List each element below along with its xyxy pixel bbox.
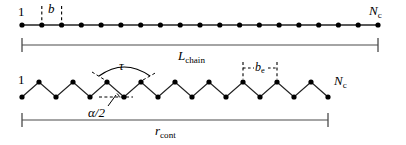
straight-chain-group: [19, 6, 380, 28]
torsion-tau-label: τ: [119, 59, 124, 72]
L-chain-subscript: chain: [185, 55, 205, 65]
figure-canvas: [0, 0, 406, 145]
effective-bond-be-label: be: [255, 61, 265, 76]
top-chain-end-symbol: N: [369, 3, 378, 18]
alpha-half-label: α/2: [88, 106, 105, 119]
zigzag-end-label: Nc: [334, 74, 347, 90]
top-chain-start-label: 1: [18, 5, 25, 18]
bond-length-b-label: b: [48, 2, 55, 15]
zigzag-chain-group: [19, 62, 330, 106]
r-cont-subscript: cont: [160, 130, 176, 140]
r-cont-label: rcont: [155, 124, 176, 140]
zigzag-end-subscript: c: [343, 80, 347, 90]
top-chain-end-label: Nc: [369, 4, 382, 20]
torsion-arc: [99, 67, 150, 76]
zigzag-end-symbol: N: [334, 73, 343, 88]
zigzag-start-label: 1: [18, 73, 25, 86]
polymer-chain-figure: 1 b Nc Lchain 1 τ α/2 be Nc rcont: [0, 0, 406, 145]
top-chain-end-subscript: c: [378, 10, 382, 20]
be-subscript: e: [261, 66, 265, 75]
zigzag-chain-vertices: [19, 79, 330, 99]
L-chain-label: Lchain: [178, 49, 205, 65]
